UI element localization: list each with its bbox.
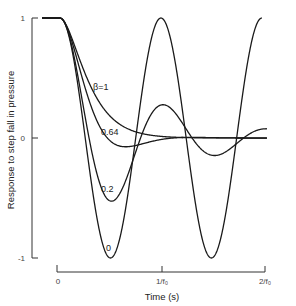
curve-label-beta0: 0 (106, 243, 111, 253)
x-tick-1: 1/f₀ (156, 277, 168, 286)
curve-064 (42, 18, 267, 147)
curves (42, 18, 267, 258)
y-axis-title: Response to step fall in pressure (5, 71, 16, 209)
curve-label-beta064: 0.64 (101, 127, 119, 137)
y-tick-1: 1 (21, 14, 26, 23)
x-tick-0: 0 (56, 277, 61, 286)
x-tick-2: 2/f₀ (259, 277, 271, 286)
curve-label-beta02: 0.2 (101, 184, 114, 194)
y-tick-0: 0 (21, 134, 26, 143)
y-tick-minus1: -1 (18, 254, 26, 263)
response-chart: 1 0 -1 Response to step fall in pressure… (0, 0, 296, 306)
x-axis: 0 1/f₀ 2/f₀ Time (s) (56, 265, 271, 302)
curve-02 (42, 18, 267, 201)
y-axis: 1 0 -1 Response to step fall in pressure (5, 14, 38, 263)
curve-1 (42, 18, 267, 138)
curve-label-beta1: β=1 (93, 82, 108, 92)
x-axis-title: Time (s) (145, 291, 179, 302)
